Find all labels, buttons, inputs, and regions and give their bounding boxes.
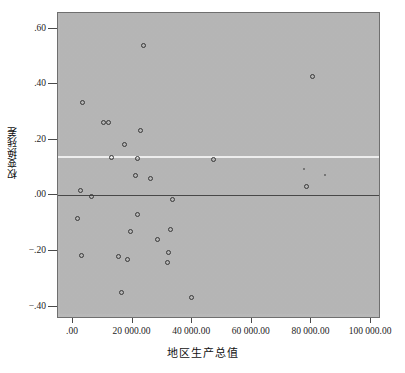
x-axis-tick-label: 20 000.00 bbox=[113, 326, 151, 337]
y-axis-tick bbox=[48, 306, 57, 307]
y-axis-tick bbox=[48, 28, 57, 29]
data-point bbox=[304, 184, 309, 189]
x-axis-tick bbox=[191, 318, 192, 323]
data-point bbox=[119, 290, 124, 295]
data-point bbox=[116, 254, 121, 259]
x-axis-tick-label: 80 000.00 bbox=[291, 326, 329, 337]
data-point bbox=[122, 142, 127, 147]
y-axis-tick-label: .40 bbox=[0, 78, 46, 88]
x-axis-tick-label: 60 000.00 bbox=[232, 326, 270, 337]
x-axis-title: 地区生产总值 bbox=[0, 344, 405, 360]
y-axis-tick bbox=[48, 250, 57, 251]
data-point bbox=[135, 212, 140, 217]
y-axis-tick bbox=[48, 139, 57, 140]
data-point bbox=[128, 229, 133, 234]
data-point bbox=[89, 194, 94, 199]
fit-reference-line bbox=[58, 156, 379, 158]
y-axis-tick-label: −.40 bbox=[0, 301, 46, 311]
plot-area bbox=[57, 12, 380, 318]
data-point bbox=[166, 250, 171, 255]
x-axis-tick bbox=[310, 318, 311, 323]
data-point bbox=[170, 197, 175, 202]
data-point bbox=[310, 74, 315, 79]
y-axis-tick-label: −.20 bbox=[0, 245, 46, 255]
x-axis-tick bbox=[251, 318, 252, 323]
data-point bbox=[148, 176, 153, 181]
scatter-plot-figure: 权变换残差 .60.40.20.00−.20−.40 .0020 000.004… bbox=[0, 0, 405, 373]
x-axis-tick bbox=[370, 318, 371, 323]
data-point bbox=[125, 257, 130, 262]
y-axis-tick-label: .60 bbox=[0, 23, 46, 33]
y-axis-tick-label: .00 bbox=[0, 189, 46, 199]
data-point bbox=[80, 100, 85, 105]
data-point bbox=[133, 173, 138, 178]
x-axis-tick-label: 40 000.00 bbox=[172, 326, 210, 337]
y-axis-tick bbox=[48, 83, 57, 84]
data-point bbox=[138, 128, 143, 133]
data-point bbox=[303, 168, 305, 170]
data-point bbox=[141, 43, 146, 48]
data-point bbox=[324, 174, 326, 176]
zero-reference-line bbox=[58, 195, 379, 196]
data-point bbox=[78, 188, 83, 193]
x-axis-tick bbox=[72, 318, 73, 323]
data-point bbox=[211, 157, 216, 162]
data-point bbox=[168, 227, 173, 232]
data-point bbox=[79, 253, 84, 258]
data-point bbox=[75, 216, 80, 221]
data-point bbox=[135, 156, 140, 161]
x-axis-tick bbox=[132, 318, 133, 323]
y-axis-tick bbox=[48, 194, 57, 195]
data-point bbox=[106, 120, 111, 125]
x-axis-tick-label: 100 000.00 bbox=[349, 326, 392, 337]
data-point bbox=[155, 237, 160, 242]
x-axis-tick-label: .00 bbox=[66, 326, 78, 337]
data-point bbox=[189, 295, 194, 300]
y-axis-labels: .60.40.20.00−.20−.40 bbox=[0, 0, 46, 373]
data-point bbox=[165, 260, 170, 265]
data-point bbox=[109, 155, 114, 160]
y-axis-tick-label: .20 bbox=[0, 134, 46, 144]
